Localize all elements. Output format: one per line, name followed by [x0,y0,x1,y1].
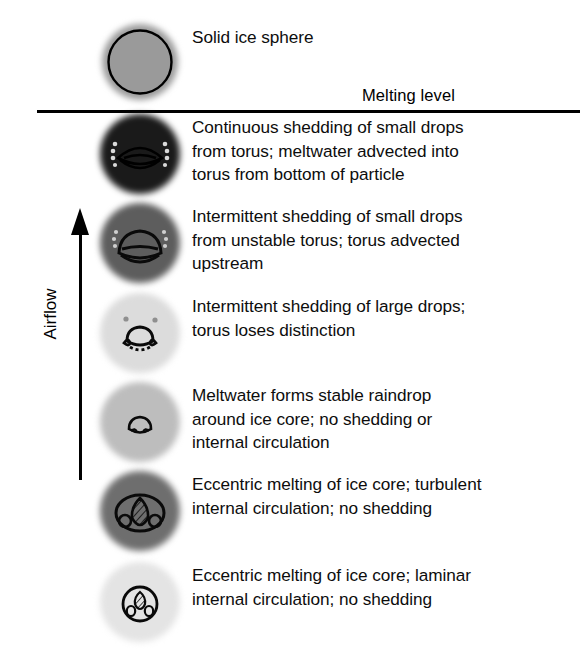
stage-caption: Eccentric melting of ice core; laminar i… [192,562,580,611]
particle-icon-intermittent-large-drops [100,293,180,373]
stage-caption: Meltwater forms stable raindrop around i… [192,382,580,455]
stage-caption: Eccentric melting of ice core; turbulent… [192,471,580,520]
particle-icon-eccentric-laminar [100,562,180,642]
stage-row-intermittent-large-drops: Intermittent shedding of large drops; to… [88,293,580,373]
melting-stages-diagram: Melting level Airflow Solid ice sphere [0,0,580,669]
stage-caption: Intermittent shedding of large drops; to… [192,293,580,342]
stage-row-eccentric-turbulent: Eccentric melting of ice core; turbulent… [88,471,580,551]
particle-icon-solid-ice-sphere [102,24,178,100]
particle-cell [88,24,192,100]
stage-caption: Continuous shedding of small drops from … [192,114,580,187]
stage-row-eccentric-laminar: Eccentric melting of ice core; laminar i… [88,562,580,642]
melting-level-line [37,110,580,113]
stage-row-continuous-shedding: Continuous shedding of small drops from … [88,114,580,194]
arrow-shaft [79,232,82,480]
stage-caption: Solid ice sphere [192,24,580,50]
airflow-arrow: Airflow [30,208,96,480]
particle-icon-stable-raindrop [100,382,180,462]
particle-cell [88,114,192,194]
particle-cell [88,382,192,462]
stage-row-stable-raindrop: Meltwater forms stable raindrop around i… [88,382,580,462]
particle-icon-eccentric-turbulent [100,471,180,551]
airflow-label: Airflow [41,266,61,362]
arrow-head-icon [71,208,89,235]
particle-cell [88,471,192,551]
stage-row-intermittent-small-drops: Intermittent shedding of small drops fro… [88,203,580,283]
stage-caption: Intermittent shedding of small drops fro… [192,203,580,276]
particle-cell [88,293,192,373]
stage-row-solid-ice-sphere: Solid ice sphere [88,24,580,100]
particle-cell [88,203,192,283]
particle-icon-continuous-shedding [100,114,180,194]
particle-icon-intermittent-small-drops [100,203,180,283]
particle-cell [88,562,192,642]
